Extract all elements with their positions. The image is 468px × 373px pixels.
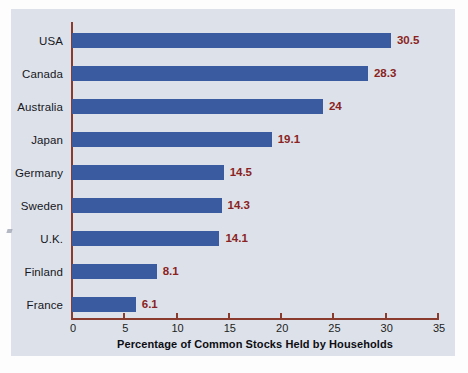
bar-row: Germany14.5 [0, 162, 468, 195]
bar [72, 165, 224, 180]
bar-chart-plot: 05101520253035 USA30.5Canada28.3Australi… [0, 0, 468, 373]
bar [72, 231, 219, 246]
bar-row: Finland8.1 [0, 261, 468, 294]
bar-row: Australia24 [0, 96, 468, 129]
category-label: Australia [0, 101, 63, 113]
bar-row: Japan19.1 [0, 129, 468, 162]
category-label: Sweden [0, 200, 63, 212]
bar [72, 198, 222, 213]
bar-row: France6.1 [0, 294, 468, 327]
bar-row: Sweden14.3 [0, 195, 468, 228]
bar-row: U.K.14.1 [0, 228, 468, 261]
bar [72, 66, 368, 81]
bar [72, 297, 136, 312]
bar-value-label: 28.3 [374, 67, 396, 79]
bar-value-label: 14.3 [228, 199, 250, 211]
bar-value-label: 24 [329, 100, 342, 112]
bar-value-label: 30.5 [397, 34, 419, 46]
bar-value-label: 8.1 [163, 265, 179, 277]
bar-value-label: 19.1 [278, 133, 300, 145]
bar [72, 99, 323, 114]
bar-value-label: 14.5 [230, 166, 252, 178]
x-axis-title: Percentage of Common Stocks Held by Hous… [71, 338, 439, 350]
bar [72, 33, 391, 48]
category-label: Japan [0, 134, 63, 146]
figure: 05101520253035 USA30.5Canada28.3Australi… [0, 0, 468, 373]
category-label: Germany [0, 167, 63, 179]
bar [72, 264, 157, 279]
category-label: Finland [0, 266, 63, 278]
bar-value-label: 6.1 [142, 298, 158, 310]
category-label: Canada [0, 68, 63, 80]
category-label: France [0, 299, 63, 311]
bar-value-label: 14.1 [225, 232, 247, 244]
bar-row: USA30.5 [0, 30, 468, 63]
category-label: USA [0, 35, 63, 47]
bar-row: Canada28.3 [0, 63, 468, 96]
category-label: U.K. [0, 233, 63, 245]
bar [72, 132, 272, 147]
